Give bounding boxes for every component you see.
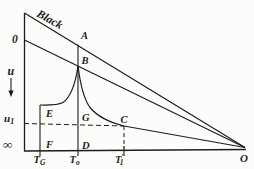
point-C-label: C	[121, 114, 129, 125]
curve-B-to-E	[40, 66, 78, 105]
x-axis-line	[24, 150, 246, 152]
point-D-label: D	[81, 140, 90, 151]
point-B-label: B	[81, 55, 89, 66]
point-E-label: E	[45, 108, 53, 119]
down-arrow-icon	[8, 91, 13, 98]
point-F-label: F	[45, 139, 53, 150]
infinity-label: ∞	[3, 137, 12, 152]
black-line-label: Black	[34, 7, 65, 31]
black-body-line	[25, 13, 246, 148]
point-G-label: G	[82, 112, 90, 123]
zero-label: 0	[12, 33, 18, 45]
diagram-canvas: Black 0 u u1 ∞ A B C D E F G O TG To T′1	[0, 0, 254, 169]
dashed-u1-level-line	[24, 124, 124, 127]
zero-line	[25, 40, 246, 148]
tick-label-T1-prime: T′1	[115, 153, 124, 168]
point-O-label: O	[240, 152, 248, 164]
point-A-label: A	[80, 30, 88, 41]
tick-label-Tg: TG	[34, 154, 46, 168]
u-axis-label: u	[8, 64, 15, 78]
u1-label: u1	[4, 112, 14, 127]
radiation-diagram: Black 0 u u1 ∞ A B C D E F G O TG To T′1	[0, 0, 254, 169]
